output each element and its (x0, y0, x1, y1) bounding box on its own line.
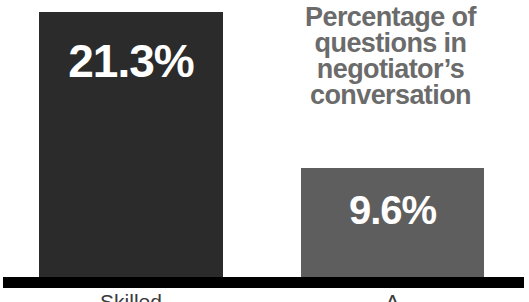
axis-baseline (3, 277, 524, 288)
category-label-average: A (301, 291, 484, 302)
bar-value-average: 9.6% (301, 190, 484, 230)
chart-title-line-4: conversation (252, 82, 529, 108)
bar-average: 9.6% (301, 168, 484, 278)
chart-title: Percentage of questions in negotiator’s … (252, 4, 529, 108)
bar-value-skilled: 21.3% (39, 38, 223, 84)
bar-chart: Percentage of questions in negotiator’s … (0, 0, 529, 302)
bar-skilled: 21.3% (39, 12, 223, 278)
chart-title-line-1: Percentage of (252, 4, 529, 30)
category-label-skilled: Skilled (39, 291, 223, 302)
chart-title-line-2: questions in (252, 30, 529, 56)
chart-title-line-3: negotiator’s (252, 56, 529, 82)
